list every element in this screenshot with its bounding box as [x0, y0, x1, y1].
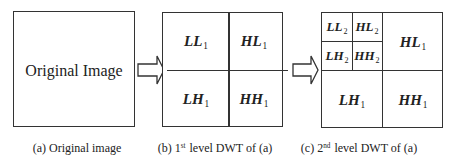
- subband-lh1-label: LH1: [183, 91, 210, 109]
- subband-hh1-label: HH1: [399, 92, 428, 110]
- original-image-label: Original Image: [25, 62, 122, 80]
- subband-hl1-label: HL1: [400, 34, 427, 52]
- subband-hh1-label: HH1: [240, 91, 269, 109]
- subband-hl1-label: HL1: [241, 33, 268, 51]
- dwt-level2-inner-horizontal-divider: [321, 41, 382, 43]
- subband-hh2-label: HH2: [354, 48, 379, 65]
- subband-ll2-label: LL2: [327, 19, 348, 36]
- caption-dwt-level2: (c) 2nd level DWT of (a): [301, 141, 417, 156]
- subband-lh1-label: LH1: [339, 92, 366, 110]
- subband-lh2-label: LH2: [325, 48, 348, 65]
- caption-dwt-level1: (b) 1st level DWT of (a): [158, 141, 273, 156]
- right-block-arrow-icon: [291, 54, 321, 86]
- subband-hl2-label: HL2: [355, 19, 378, 36]
- dwt-level1-horizontal-divider: [167, 70, 288, 72]
- caption-original-image: (a) Original image: [33, 141, 122, 156]
- subband-ll1-label: LL1: [184, 33, 208, 51]
- dwt-level2-main-horizontal-divider: [321, 70, 443, 72]
